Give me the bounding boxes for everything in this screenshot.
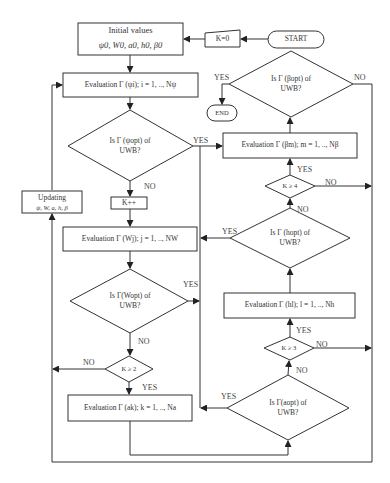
k-ge-3-label: K ≥ 3 bbox=[264, 343, 314, 353]
a-decision-line1: Is Γ(aopt) of bbox=[238, 398, 338, 408]
k-ge-4-text: K ≥ 4 bbox=[265, 181, 315, 191]
h-decision-label: Is Γ (hopt) of UWB? bbox=[240, 228, 340, 248]
eval-h-text: Evaluation Γ (hl); l = 1, .., Nh bbox=[224, 300, 355, 310]
a-no-label: NO bbox=[296, 366, 308, 375]
eval-h-label: Evaluation Γ (hl); l = 1, .., Nh bbox=[224, 300, 355, 310]
h-decision-line2: UWB? bbox=[240, 238, 340, 248]
k2-no-label: NO bbox=[83, 358, 95, 367]
beta-decision-label: Is Γ (βopt) of UWB? bbox=[240, 74, 342, 94]
eval-a-text: Evaluation Γ (ak); k = 1, .., Na bbox=[68, 403, 192, 413]
start-terminal-label: START bbox=[268, 34, 324, 44]
psi-decision-line1: Is Γ (ψopt) of bbox=[80, 136, 180, 146]
k4-no-label: NO bbox=[325, 178, 337, 187]
h-yes-label: YES bbox=[222, 227, 237, 236]
end-terminal-label: END bbox=[207, 108, 237, 118]
w-yes-label: YES bbox=[183, 280, 198, 289]
eval-w-text: Evaluation Γ (Wj); j = 1, .., NW bbox=[63, 234, 197, 244]
eval-psi-text: Evaluation Γ (ψi); i = 1, .., Nψ bbox=[63, 80, 198, 90]
w-decision-line2: UWB? bbox=[80, 301, 180, 311]
k2-yes-label: YES bbox=[142, 383, 157, 392]
psi-decision-label: Is Γ (ψopt) of UWB? bbox=[80, 136, 180, 156]
k-ge-2-label: K ≥ 2 bbox=[105, 364, 153, 374]
k0-label: K=0 bbox=[205, 34, 240, 44]
a-yes-label: YES bbox=[221, 392, 236, 401]
beta-decision-line2: UWB? bbox=[240, 84, 342, 94]
start-text: START bbox=[268, 34, 324, 44]
w-decision-line1: Is Γ(Wopt) of bbox=[80, 291, 180, 301]
beta-decision-line1: Is Γ (βopt) of bbox=[240, 74, 342, 84]
updating-label: Updating ψ, W, a, h, β bbox=[22, 193, 82, 213]
k-ge-3-text: K ≥ 3 bbox=[264, 343, 314, 353]
eval-beta-label: Evaluation Γ (βm); m = 1, .., Nβ bbox=[223, 140, 357, 150]
k3-no-label: NO bbox=[316, 340, 328, 349]
initial-values-label: Initial values ψ0, W0, a0, h0, β0 bbox=[78, 25, 183, 50]
k-increment-label: K++ bbox=[111, 198, 147, 208]
eval-a-label: Evaluation Γ (ak); k = 1, .., Na bbox=[68, 403, 192, 413]
k3-yes-label: YES bbox=[296, 326, 311, 335]
psi-decision-line2: UWB? bbox=[80, 146, 180, 156]
initial-values-title: Initial values bbox=[78, 25, 183, 35]
k4-yes-label: YES bbox=[297, 165, 312, 174]
psi-no-label: NO bbox=[144, 182, 156, 191]
w-no-label: NO bbox=[138, 337, 150, 346]
eval-psi-label: Evaluation Γ (ψi); i = 1, .., Nψ bbox=[63, 80, 198, 90]
w-decision-label: Is Γ(Wopt) of UWB? bbox=[80, 291, 180, 311]
k-increment-text: K++ bbox=[111, 198, 147, 208]
beta-no-label: NO bbox=[354, 73, 366, 82]
psi-yes-label: YES bbox=[193, 136, 208, 145]
k-ge-4-label: K ≥ 4 bbox=[265, 181, 315, 191]
initial-values-params: ψ0, W0, a0, h0, β0 bbox=[78, 40, 183, 50]
updating-title: Updating bbox=[22, 193, 82, 203]
beta-yes-label: YES bbox=[214, 73, 229, 82]
a-decision-label: Is Γ(aopt) of UWB? bbox=[238, 398, 338, 418]
k0-text: K=0 bbox=[205, 34, 240, 44]
eval-w-label: Evaluation Γ (Wj); j = 1, .., NW bbox=[63, 234, 197, 244]
h-no-label: NO bbox=[297, 205, 309, 214]
a-decision-line2: UWB? bbox=[238, 408, 338, 418]
end-text: END bbox=[207, 108, 237, 118]
eval-beta-text: Evaluation Γ (βm); m = 1, .., Nβ bbox=[223, 140, 357, 150]
updating-params: ψ, W, a, h, β bbox=[22, 203, 82, 213]
h-decision-line1: Is Γ (hopt) of bbox=[240, 228, 340, 238]
k-ge-2-text: K ≥ 2 bbox=[105, 364, 153, 374]
